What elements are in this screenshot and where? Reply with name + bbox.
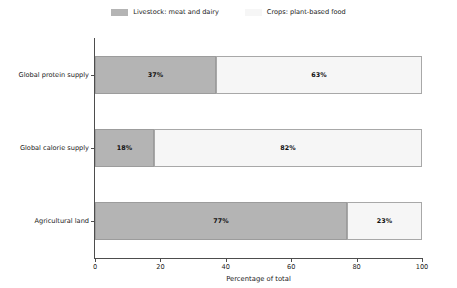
bar-value-label: 37% bbox=[148, 72, 163, 78]
bar-segment[interactable]: 63% bbox=[216, 56, 422, 94]
x-tick-label: 20 bbox=[156, 264, 164, 271]
y-tick-label: Global calorie supply bbox=[20, 145, 89, 152]
x-tick-label: 0 bbox=[93, 264, 97, 271]
chart-legend: Livestock: meat and dairy Crops: plant-b… bbox=[0, 9, 457, 16]
legend-label-crops: Crops: plant-based food bbox=[267, 9, 346, 16]
bar-segment[interactable]: 37% bbox=[95, 56, 216, 94]
y-tick-mark bbox=[91, 221, 95, 222]
x-tick-label: 100 bbox=[416, 264, 429, 271]
x-tick-label: 60 bbox=[287, 264, 295, 271]
legend-swatch-livestock-icon bbox=[111, 9, 128, 16]
x-tick-mark bbox=[422, 258, 423, 262]
x-tick-mark bbox=[160, 258, 161, 262]
x-tick-mark bbox=[291, 258, 292, 262]
chart-figure: Livestock: meat and dairy Crops: plant-b… bbox=[0, 0, 457, 288]
x-axis-spine bbox=[94, 258, 423, 259]
legend-label-livestock: Livestock: meat and dairy bbox=[133, 9, 219, 16]
bar-segment[interactable]: 23% bbox=[347, 202, 422, 240]
bar-row: 37%63% bbox=[95, 56, 422, 94]
bar-value-label: 77% bbox=[213, 218, 228, 224]
x-tick-mark bbox=[95, 258, 96, 262]
plot-area: 37%63%18%82%77%23% Global protein supply… bbox=[95, 38, 422, 258]
y-tick-mark bbox=[91, 75, 95, 76]
legend-item-livestock: Livestock: meat and dairy bbox=[111, 9, 219, 16]
bar-segment[interactable]: 18% bbox=[95, 129, 154, 167]
x-tick-label: 80 bbox=[352, 264, 360, 271]
x-axis-title: Percentage of total bbox=[95, 276, 422, 283]
bar-value-label: 82% bbox=[280, 145, 295, 151]
y-tick-mark bbox=[91, 148, 95, 149]
legend-item-crops: Crops: plant-based food bbox=[245, 9, 346, 16]
bar-segment[interactable]: 82% bbox=[154, 129, 422, 167]
x-tick-mark bbox=[226, 258, 227, 262]
bar-row: 18%82% bbox=[95, 129, 422, 167]
bar-value-label: 18% bbox=[117, 145, 132, 151]
bar-row: 77%23% bbox=[95, 202, 422, 240]
x-tick-label: 40 bbox=[222, 264, 230, 271]
x-tick-mark bbox=[357, 258, 358, 262]
y-tick-label: Agricultural land bbox=[34, 218, 89, 225]
y-tick-label: Global protein supply bbox=[19, 72, 89, 79]
bar-value-label: 63% bbox=[311, 72, 326, 78]
bar-segment[interactable]: 77% bbox=[95, 202, 347, 240]
legend-swatch-crops-icon bbox=[245, 9, 262, 16]
bar-value-label: 23% bbox=[377, 218, 392, 224]
